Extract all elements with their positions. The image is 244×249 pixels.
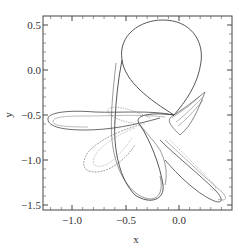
x-tick-label: −1.0 [62,214,82,226]
attractor-plot: −1.0 −0.5 0.0 0.5 0.0 −0.5 −1.0 −1.5 x y [0,0,244,249]
plot-frame [43,16,232,210]
y-axis-ticks [43,25,232,205]
x-axis-label: x [133,233,139,245]
y-tick-label: −1.5 [21,199,41,211]
y-tick-label: 0.5 [27,19,41,31]
x-tick-label: −0.5 [116,214,136,226]
x-tick-label: 0.0 [172,214,186,226]
y-axis-label: y [2,112,14,118]
y-axis-minor-ticks [43,34,232,196]
y-tick-label: 0.0 [27,64,41,76]
y-tick-label: −1.0 [21,154,41,166]
y-tick-label: −0.5 [21,109,41,121]
trajectory-curves [48,20,226,202]
